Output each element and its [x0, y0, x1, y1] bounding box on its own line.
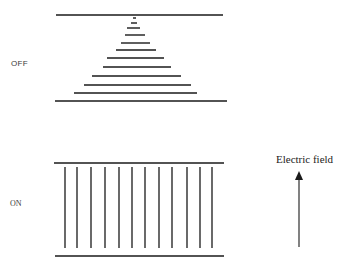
electric-field-label: Electric field [276, 154, 333, 165]
electric-field-arrow-icon [295, 171, 303, 247]
on-state-cell [54, 163, 224, 256]
lcd-alignment-diagram [0, 0, 344, 269]
off-state-label: OFF [11, 60, 28, 68]
on-state-label: ON [10, 200, 22, 208]
arrow-head [295, 171, 303, 180]
off-state-cell [55, 15, 227, 101]
